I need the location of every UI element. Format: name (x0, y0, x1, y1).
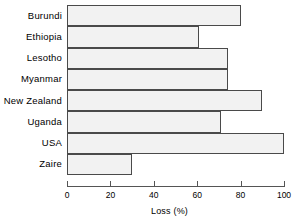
category-label: Burundi (0, 11, 62, 21)
category-label: New Zealand (0, 96, 62, 106)
bar-row (67, 90, 284, 111)
axis-tick (284, 181, 285, 187)
bar-chart: BurundiEthiopiaLesothoMyanmarNew Zealand… (0, 0, 299, 224)
bar-row (67, 154, 284, 175)
value-axis-line (67, 186, 285, 187)
bar-row (67, 133, 284, 154)
axis-tick (241, 181, 242, 187)
category-label: Zaire (0, 159, 62, 169)
value-axis-title-label: Loss (%) (151, 206, 188, 216)
bar (67, 69, 228, 90)
axis-tick (67, 181, 68, 187)
axis-tick-label: 60 (182, 190, 212, 200)
axis-tick-label: 80 (226, 190, 256, 200)
axis-tick (197, 181, 198, 187)
axis-tick (110, 181, 111, 187)
axis-tick-label: 40 (139, 190, 169, 200)
bar (67, 111, 221, 132)
axis-tick-label: 100 (269, 190, 299, 200)
value-axis-title: Loss (%) (0, 206, 299, 216)
category-label: Myanmar (0, 74, 62, 84)
axis-tick-label: 20 (95, 190, 125, 200)
bar-row (67, 48, 284, 69)
category-label: Ethiopia (0, 32, 62, 42)
bar-row (67, 26, 284, 47)
bar (67, 133, 284, 154)
plot-area (67, 5, 284, 175)
bar-row (67, 111, 284, 132)
bar (67, 26, 199, 47)
bar (67, 90, 262, 111)
bar (67, 154, 132, 175)
bar (67, 48, 228, 69)
bar-row (67, 5, 284, 26)
category-label: Lesotho (0, 53, 62, 63)
bar (67, 5, 241, 26)
category-label: Uganda (0, 117, 62, 127)
axis-tick-label: 0 (52, 190, 82, 200)
bar-row (67, 69, 284, 90)
category-axis: BurundiEthiopiaLesothoMyanmarNew Zealand… (0, 5, 62, 175)
axis-tick (154, 181, 155, 187)
category-label: USA (0, 138, 62, 148)
